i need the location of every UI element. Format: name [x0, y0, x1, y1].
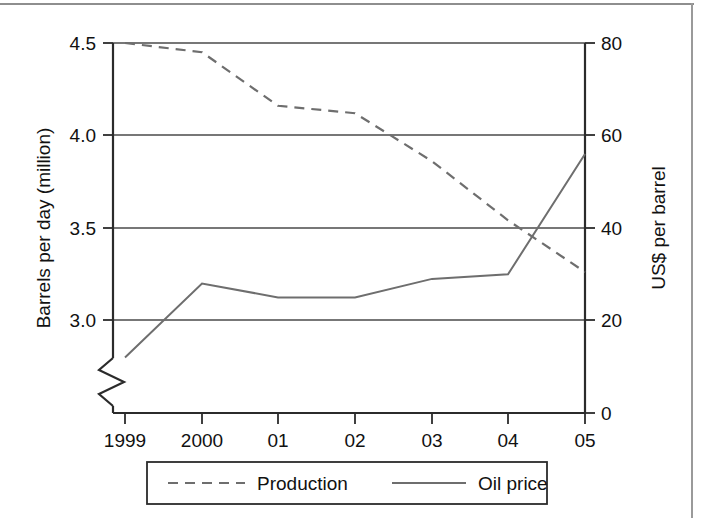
line-chart: 4.5 4.0 3.5 3.0 Barrels per day (million…: [0, 0, 707, 521]
series-line-oil-price: [125, 154, 585, 358]
right-tick-label-2: 40: [601, 218, 622, 239]
x-tick-label-1999: 1999: [104, 430, 146, 451]
right-tick-label-3: 60: [601, 125, 622, 146]
x-tick-label-04: 04: [497, 430, 519, 451]
x-tick-label-01: 01: [267, 430, 288, 451]
right-tick-labels: 80 60 40 20 0: [601, 33, 622, 424]
gridlines: [113, 43, 585, 320]
x-tick-label-03: 03: [421, 430, 442, 451]
right-axis-title: US$ per barrel: [648, 166, 669, 290]
legend: Production Oil price: [147, 462, 548, 504]
left-tick-label-0: 4.5: [70, 33, 96, 54]
legend-label-oil-price: Oil price: [478, 473, 548, 494]
x-tick-label-05: 05: [574, 430, 595, 451]
right-tick-label-0: 0: [601, 403, 612, 424]
x-tick-labels: 1999 2000 01 02 03 04 05: [104, 430, 596, 451]
chart-figure: 4.5 4.0 3.5 3.0 Barrels per day (million…: [0, 0, 707, 521]
left-tick-label-1: 4.0: [70, 125, 96, 146]
left-tick-label-2: 3.5: [70, 218, 96, 239]
series-line-production: [125, 43, 585, 272]
legend-label-production: Production: [257, 473, 348, 494]
left-tick-label-3: 3.0: [70, 310, 96, 331]
right-tick-label-1: 20: [601, 310, 622, 331]
x-tick-label-02: 02: [344, 430, 365, 451]
left-tick-labels: 4.5 4.0 3.5 3.0: [70, 33, 96, 331]
right-tick-label-4: 80: [601, 33, 622, 54]
left-axis-title: Barrels per day (million): [33, 128, 54, 329]
axis-break-zigzag: [99, 358, 124, 406]
right-axis: [585, 43, 595, 413]
x-tick-label-2000: 2000: [181, 430, 223, 451]
x-axis: [113, 413, 585, 424]
